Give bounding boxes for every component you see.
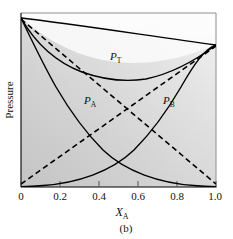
x-axis-title: XA — [114, 205, 128, 221]
y-axis-title: Pressure — [3, 81, 15, 118]
x-tick-label: 1.0 — [208, 190, 222, 202]
pressure-composition-diagram: PT PA PB 0 0.2 0.4 0.6 0.8 1.0 XA (b) Pr… — [0, 0, 233, 239]
x-tick-label: 0.2 — [53, 190, 67, 202]
x-tick-label: 0 — [18, 190, 24, 202]
plot-background — [21, 13, 216, 187]
x-tick-label: 0.8 — [170, 190, 184, 202]
x-tick-label: 0.6 — [131, 190, 145, 202]
figure-caption: (b) — [120, 222, 133, 235]
chart-svg: PT PA PB 0 0.2 0.4 0.6 0.8 1.0 XA (b) Pr… — [0, 0, 233, 239]
x-tick-label: 0.4 — [92, 190, 106, 202]
x-tick-labels: 0 0.2 0.4 0.6 0.8 1.0 — [18, 190, 222, 202]
